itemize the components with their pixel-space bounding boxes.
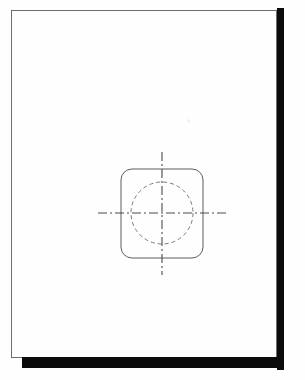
drawing-canvas — [0, 0, 305, 380]
scanner-edge-bar-bottom — [22, 357, 284, 368]
faint-scan-speck — [187, 119, 190, 123]
scanner-edge-bar-right — [277, 8, 284, 370]
scanned-drawing-page — [0, 0, 305, 380]
